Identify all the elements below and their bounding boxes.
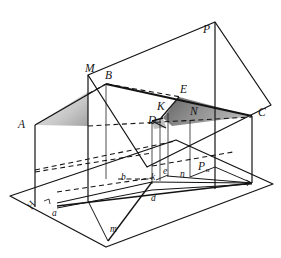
label-E: E — [179, 83, 187, 95]
proj-m-a — [88, 201, 108, 241]
label-B: B — [105, 69, 112, 81]
figure-canvas: A B C D E K M N P a b d e k m n P н H — [0, 0, 281, 258]
hidden-M-to-B — [88, 84, 106, 94]
hidden-b-level — [35, 153, 152, 172]
label-b: b — [121, 172, 126, 182]
hidden-lines — [35, 84, 252, 192]
label-trace-base: P — [197, 160, 205, 172]
label-m: m — [110, 224, 117, 234]
tick-at-a — [44, 199, 50, 204]
faint-caption — [0, 249, 281, 258]
label-D: D — [147, 114, 157, 126]
label-C: C — [258, 106, 266, 118]
geometry-figure: A B C D E K M N P a b d e k m n P н H — [0, 0, 281, 258]
label-P: P — [202, 23, 210, 35]
label-N: N — [189, 105, 199, 117]
label-n: n — [180, 169, 185, 179]
label-M: M — [84, 62, 96, 74]
label-trace-Pn: P н — [197, 160, 210, 173]
label-A: A — [17, 118, 26, 130]
hidden-B-to-E — [107, 84, 181, 97]
plane-h-outline — [10, 140, 273, 247]
label-a: a — [52, 208, 57, 218]
label-e: e — [163, 166, 167, 176]
label-k: k — [151, 172, 156, 182]
label-d: d — [151, 193, 156, 203]
label-trace-subscript: н — [206, 166, 210, 173]
label-K: K — [156, 100, 166, 112]
